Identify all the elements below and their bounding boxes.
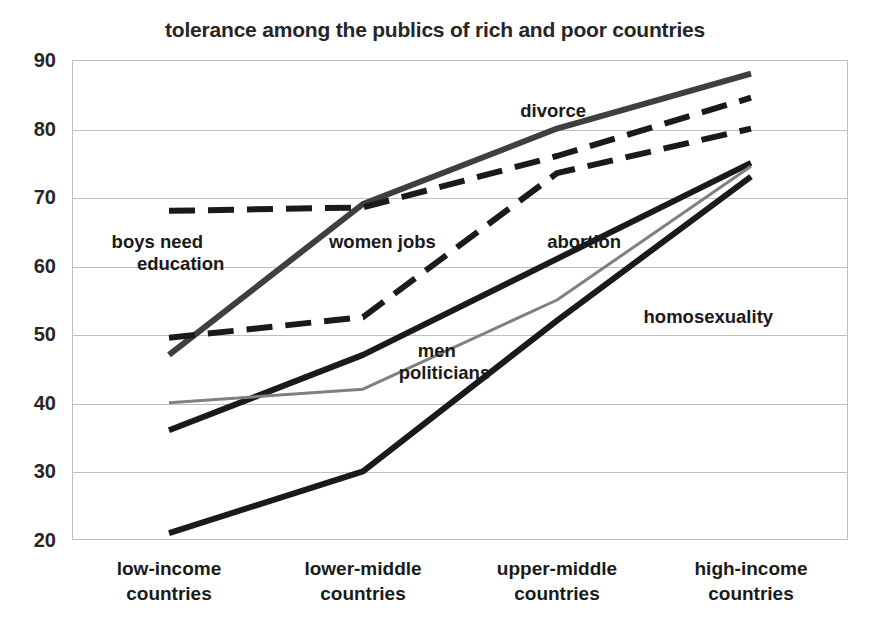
- x-axis-tick-line: countries: [266, 581, 460, 606]
- series-line: [169, 163, 751, 430]
- x-axis-tick-line: high-income: [654, 556, 848, 581]
- x-axis-tick-label: upper-middlecountries: [460, 556, 654, 636]
- x-axis-tick-line: countries: [654, 581, 848, 606]
- x-axis-tick-line: lower-middle: [266, 556, 460, 581]
- series-annotation-label: politicians: [399, 361, 491, 385]
- x-axis-tick-line: low-income: [72, 556, 266, 581]
- series-line: [169, 177, 751, 534]
- series-annotation-label: abortion: [547, 230, 621, 254]
- series-annotation-label: education: [137, 252, 224, 276]
- x-axis-tick-label: high-incomecountries: [654, 556, 848, 636]
- x-axis-tick-line: upper-middle: [460, 556, 654, 581]
- series-annotation-label: divorce: [520, 99, 586, 123]
- series-annotation-label: homosexuality: [644, 305, 774, 329]
- series-line: [169, 98, 751, 211]
- chart-container: tolerance among the publics of rich and …: [0, 0, 870, 642]
- x-axis: low-incomecountrieslower-middlecountries…: [72, 556, 848, 636]
- x-axis-tick-line: countries: [460, 581, 654, 606]
- x-axis-tick-line: countries: [72, 581, 266, 606]
- series-annotation-label: women jobs: [329, 230, 436, 254]
- series-annotation-label: boys need: [112, 230, 204, 254]
- x-axis-tick-label: lower-middlecountries: [266, 556, 460, 636]
- series-annotation-label: men: [418, 339, 456, 363]
- x-axis-tick-label: low-incomecountries: [72, 556, 266, 636]
